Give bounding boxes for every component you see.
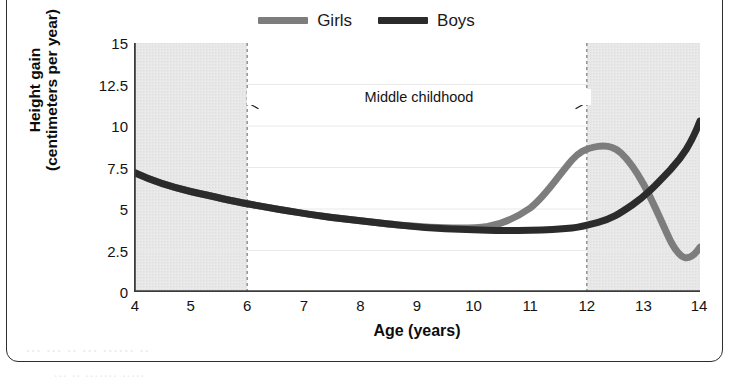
x-axis-tick-labels: 4 5 6 7 8 9 10 11 12 13 14 (134, 297, 700, 321)
y-axis-title: Height gain (centimeters per year) (14, 0, 74, 210)
y-tick-label: 12.5 (84, 76, 128, 93)
x-tick-label: 10 (454, 297, 494, 314)
legend-swatch-girls (258, 17, 308, 24)
x-tick-label: 7 (284, 297, 324, 314)
x-tick-label: 6 (227, 297, 267, 314)
x-tick-label: 14 (679, 297, 719, 314)
x-tick-label: 5 (171, 297, 211, 314)
scan-bleed-artifact-top: ··· ··· ·· ··· ······ ·· (26, 343, 150, 358)
y-axis-tick-labels: 15 12.5 10 7.5 5 2.5 0 (80, 43, 128, 292)
y-tick-label: 5 (84, 201, 128, 218)
y-axis-title-line2: (centimeters per year) (44, 9, 61, 171)
x-tick-label: 4 (115, 297, 155, 314)
legend-item-boys[interactable]: Boys (378, 12, 475, 29)
legend-label-girls: Girls (317, 12, 352, 29)
y-tick-label: 2.5 (84, 242, 128, 259)
y-tick-label: 15 (84, 35, 128, 52)
legend-item-girls[interactable]: Girls (258, 12, 352, 29)
x-tick-label: 8 (340, 297, 380, 314)
x-tick-label: 11 (510, 297, 550, 314)
plot-area (134, 43, 700, 292)
x-tick-label: 12 (567, 297, 607, 314)
y-tick-label: 10 (84, 118, 128, 135)
x-tick-label: 13 (623, 297, 663, 314)
middle-childhood-arrow (250, 100, 584, 109)
chart-figure: ··· ··· ·· ··· ······ ·· ··· ·· ······· … (0, 0, 733, 382)
y-axis-title-line1: Height gain (27, 48, 44, 132)
legend-label-boys: Boys (437, 12, 475, 29)
chart-legend: Girls Boys (0, 6, 733, 34)
x-tick-label: 9 (397, 297, 437, 314)
scan-bleed-artifact-bottom: ··· ·· ······· ····· (54, 370, 145, 382)
x-axis-title: Age (years) (134, 322, 700, 340)
y-tick-label: 7.5 (84, 159, 128, 176)
legend-swatch-boys (378, 17, 428, 24)
